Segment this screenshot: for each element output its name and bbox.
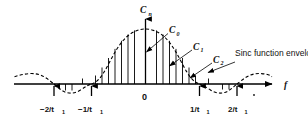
scan-speck — [253, 94, 255, 96]
x-axis-label: f — [284, 80, 288, 90]
x-tick-label-plus-2: 2/t 1 — [228, 105, 248, 115]
spectral-lines-group — [96, 29, 196, 84]
y-axis-label-subscript: n — [149, 11, 153, 17]
x-tick-label-minus-1: −1/t 1 — [78, 105, 103, 115]
line-spectrum-chart: C n f 0 C 0 C 1 C 2 Sinc function envelo… — [0, 0, 308, 127]
annotation-c0: C 0 — [169, 25, 180, 37]
x-tick-label-plus-2-subscript: 1 — [245, 109, 248, 115]
annotation-leaders — [147, 34, 236, 79]
annotation-c2-subscript: 2 — [220, 60, 224, 66]
x-tick-label-minus-1-subscript: 1 — [100, 109, 103, 115]
annotation-c0-subscript: 0 — [177, 31, 180, 37]
annotation-c1-subscript: 1 — [201, 47, 204, 53]
y-axis-label-main: C — [140, 5, 147, 15]
annotation-c1: C 1 — [193, 42, 204, 54]
x-tick-label-minus-2-subscript: 1 — [62, 109, 65, 115]
annotation-sinc-envelope: Sinc function envelope — [235, 48, 308, 58]
origin-label: 0 — [142, 92, 147, 102]
annotation-c0-main: C — [169, 25, 176, 35]
x-tick-label-plus-1-main: 1/t — [190, 105, 200, 114]
annotation-c2-main: C — [213, 55, 220, 65]
x-tick-label-plus-1: 1/t 1 — [190, 105, 210, 115]
x-tick-label-plus-1-subscript: 1 — [207, 109, 210, 115]
annotation-c2: C 2 — [213, 55, 224, 67]
x-tick-label-plus-2-main: 2/t — [228, 105, 238, 114]
x-tick-label-minus-2-main: −2/t — [40, 105, 54, 114]
x-tick-label-minus-1-main: −1/t — [78, 105, 92, 114]
figure-container: C n f 0 C 0 C 1 C 2 Sinc function envelo… — [0, 0, 308, 127]
y-axis-label: C n — [140, 5, 153, 17]
annotation-c1-main: C — [193, 42, 200, 52]
x-tick-label-minus-2: −2/t 1 — [40, 105, 65, 115]
